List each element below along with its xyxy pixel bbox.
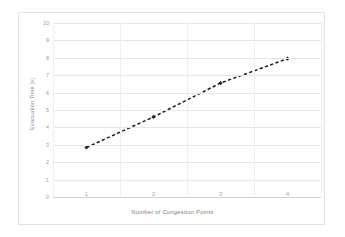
- y-axis-tick-label: 5: [33, 107, 49, 113]
- y-axis-tick-label: 10: [33, 20, 49, 26]
- y-axis-tick-label: 1: [33, 177, 49, 183]
- y-axis-tick-label: 9: [33, 37, 49, 43]
- gridline-vertical: [321, 23, 322, 197]
- y-axis-tick-label: 0: [33, 194, 49, 200]
- gridline-vertical: [187, 23, 188, 197]
- gridline-vertical: [120, 23, 121, 197]
- x-axis-tick-labels: 1234: [53, 191, 321, 205]
- y-axis-tick-labels: 012345678910: [33, 17, 49, 193]
- x-axis-tick-label: 3: [211, 191, 231, 197]
- y-axis-tick-label: 2: [33, 159, 49, 165]
- x-axis-title: Number of Congestion Points: [19, 209, 326, 215]
- y-axis-tick-label: 3: [33, 142, 49, 148]
- x-axis-tick-label: 2: [144, 191, 164, 197]
- y-axis-tick-label: 7: [33, 72, 49, 78]
- plot-area: [53, 23, 321, 197]
- chart-container: Evacuation Time [s] 012345678910 1234 Nu…: [18, 12, 325, 225]
- y-axis-tick-label: 4: [33, 124, 49, 130]
- y-axis-tick-label: 6: [33, 90, 49, 96]
- gridline-vertical: [53, 23, 54, 197]
- y-axis-tick-label: 8: [33, 55, 49, 61]
- gridline-vertical: [254, 23, 255, 197]
- x-axis-tick-label: 4: [278, 191, 298, 197]
- x-axis-tick-label: 1: [77, 191, 97, 197]
- chart-plot-wrapper: Evacuation Time [s] 012345678910 1234 Nu…: [19, 13, 326, 226]
